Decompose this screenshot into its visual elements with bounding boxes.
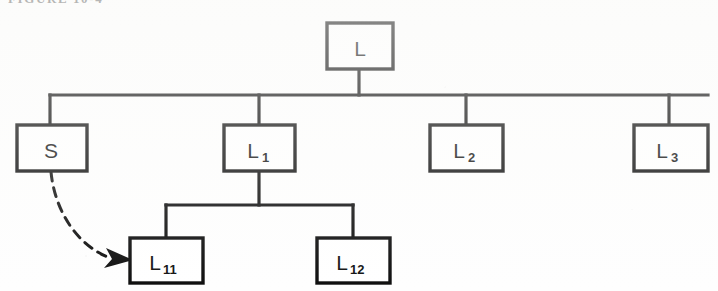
node-L1[interactable]: L 1 bbox=[224, 125, 295, 171]
node-L11[interactable]: L 11 bbox=[130, 238, 203, 283]
node-L12[interactable]: L 12 bbox=[317, 238, 390, 283]
node-L11-subscript: 11 bbox=[163, 262, 177, 277]
node-L3-label: L bbox=[656, 139, 668, 162]
node-L3-subscript: 3 bbox=[671, 150, 678, 165]
node-L-label: L bbox=[354, 37, 366, 60]
node-L[interactable]: L bbox=[327, 23, 393, 69]
node-S[interactable]: S bbox=[17, 125, 87, 171]
node-L2[interactable]: L 2 bbox=[430, 125, 503, 171]
tree-diagram-canvas: L S L 1 L 2 L 3 L 11 bbox=[0, 0, 718, 291]
node-L11-label: L bbox=[149, 251, 161, 274]
figure-root: FIGURE 10-4 bbox=[0, 0, 718, 291]
node-S-label: S bbox=[44, 139, 58, 162]
node-L12-subscript: 12 bbox=[350, 262, 364, 277]
node-L1-subscript: 1 bbox=[262, 150, 269, 165]
dashed-arrow-curve bbox=[51, 172, 110, 258]
node-L1-box[interactable] bbox=[224, 125, 295, 171]
node-L1-label: L bbox=[247, 139, 259, 162]
node-L12-label: L bbox=[336, 251, 348, 274]
dashed-arrow-s-to-l11 bbox=[51, 172, 133, 268]
node-L2-box[interactable] bbox=[430, 125, 503, 171]
node-L2-subscript: 2 bbox=[468, 150, 475, 165]
connector-edges bbox=[50, 69, 708, 238]
node-L2-label: L bbox=[453, 139, 465, 162]
node-L3[interactable]: L 3 bbox=[634, 125, 708, 171]
